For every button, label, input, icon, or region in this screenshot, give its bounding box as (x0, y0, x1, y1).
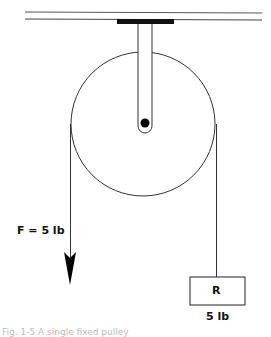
ceiling-line-top (25, 12, 262, 13)
force-label: F = 5 lb (17, 224, 65, 237)
load-label: R (212, 284, 220, 297)
axle-dot (141, 119, 150, 128)
load-weight-label: 5 lb (206, 310, 229, 323)
pulley-bracket (138, 24, 152, 133)
mount-plate (117, 19, 174, 24)
figure-caption: Fig. 1-5 A single fixed pulley (2, 327, 129, 337)
